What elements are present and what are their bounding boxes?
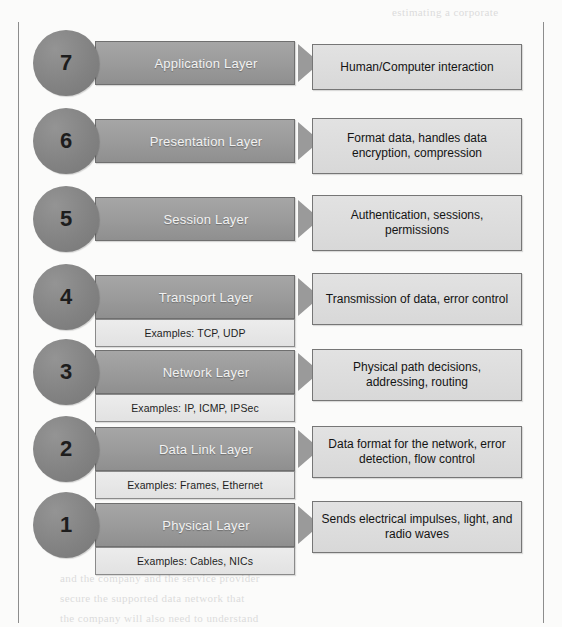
layer-description-label: Human/Computer interaction [332, 60, 501, 75]
layer-name-bar: Transport Layer [95, 275, 295, 319]
layer-description-label: Transmission of data, error control [318, 292, 516, 307]
layer-number: 3 [60, 359, 72, 385]
layer-number-circle: 6 [33, 108, 99, 174]
layer-name-bar: Application Layer [95, 41, 295, 85]
layer-name-label: Session Layer [142, 212, 249, 227]
layer-description-box: Authentication, sessions, permissions [312, 195, 522, 251]
layer-description-label: Sends electrical impulses, light, and ra… [313, 512, 521, 542]
osi-model-diagram: 7Application LayerHuman/Computer interac… [0, 0, 562, 627]
layer-number-circle: 2 [33, 416, 99, 482]
layer-examples-label: Examples: Frames, Ethernet [127, 479, 263, 491]
layer-number: 5 [60, 206, 72, 232]
layer-description-label: Physical path decisions, addressing, rou… [313, 360, 521, 390]
layer-description-box: Data format for the network, error detec… [312, 426, 522, 478]
layer-number: 1 [60, 512, 72, 538]
layer-description-label: Authentication, sessions, permissions [313, 208, 521, 238]
layer-examples-label: Examples: IP, ICMP, IPSec [131, 402, 259, 414]
layer-name-bar: Session Layer [95, 197, 295, 241]
layer-number-circle: 3 [33, 339, 99, 405]
layer-description-box: Transmission of data, error control [312, 273, 522, 325]
layer-description-box: Physical path decisions, addressing, rou… [312, 349, 522, 401]
layer-number: 2 [60, 436, 72, 462]
layer-examples-label: Examples: Cables, NICs [137, 555, 253, 567]
layer-name-bar: Network Layer [95, 350, 295, 394]
layer-name-bar: Data Link Layer [95, 427, 295, 471]
layer-name-label: Physical Layer [140, 518, 249, 533]
layer-examples-box: Examples: IP, ICMP, IPSec [95, 394, 295, 422]
layer-name-label: Presentation Layer [128, 134, 263, 149]
layer-description-box: Format data, handles data encryption, co… [312, 118, 522, 174]
layer-number-circle: 1 [33, 492, 99, 558]
layer-number: 7 [60, 50, 72, 76]
layer-name-label: Application Layer [132, 56, 257, 71]
layer-description-label: Data format for the network, error detec… [313, 437, 521, 467]
layer-name-label: Network Layer [141, 365, 249, 380]
layer-examples-label: Examples: TCP, UDP [144, 327, 245, 339]
layer-number-circle: 7 [33, 30, 99, 96]
layer-number-circle: 4 [33, 264, 99, 330]
layer-name-label: Data Link Layer [137, 442, 253, 457]
layer-number-circle: 5 [33, 186, 99, 252]
layer-examples-box: Examples: Cables, NICs [95, 547, 295, 575]
layer-name-label: Transport Layer [137, 290, 253, 305]
layer-examples-box: Examples: TCP, UDP [95, 319, 295, 347]
layer-number: 6 [60, 128, 72, 154]
layer-name-bar: Presentation Layer [95, 119, 295, 163]
layer-examples-box: Examples: Frames, Ethernet [95, 471, 295, 499]
layer-description-label: Format data, handles data encryption, co… [313, 131, 521, 161]
layer-name-bar: Physical Layer [95, 503, 295, 547]
layer-description-box: Sends electrical impulses, light, and ra… [312, 501, 522, 553]
layer-description-box: Human/Computer interaction [312, 44, 522, 90]
layer-number: 4 [60, 284, 72, 310]
